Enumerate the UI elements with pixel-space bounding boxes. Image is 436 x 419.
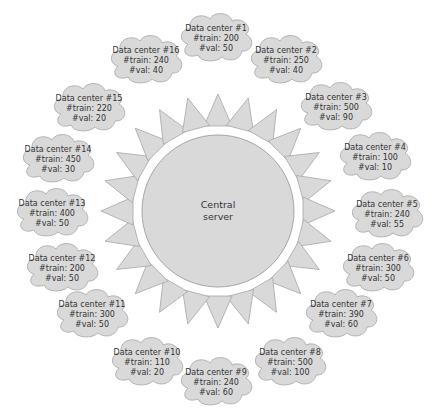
sun-ray-triangle [105, 175, 140, 202]
data-center-cloud: Data center #4#train: 100#val: 10 [340, 133, 410, 180]
sun-ray-triangle [101, 197, 133, 225]
federated-learning-diagram: Central server Data center #1#train: 200… [0, 0, 436, 419]
central-server-label-line2: server [203, 211, 233, 222]
data-center-name: Data center #5 [356, 200, 418, 209]
data-center-train-count: #train: 100 [352, 153, 398, 162]
data-center-name: Data center #11 [59, 300, 126, 309]
data-center-train-count: #train: 500 [313, 103, 359, 112]
data-center-val-count: #val: 20 [130, 368, 164, 377]
data-center-train-count: #train: 240 [193, 378, 239, 387]
data-center-val-count: #val: 40 [269, 66, 303, 75]
sun-ray-triangle [204, 296, 232, 328]
data-center-cloud: Data center #9#train: 240#val: 60 [181, 358, 251, 405]
data-center-val-count: #val: 60 [199, 388, 233, 397]
sun-ray-triangle [296, 175, 331, 202]
data-center-val-count: #val: 55 [370, 220, 404, 229]
data-center-cloud: Data center #7#train: 390#val: 60 [306, 290, 376, 337]
data-center-cloud: Data center #1#train: 200#val: 50 [181, 14, 251, 61]
data-center-cloud: Data center #12#train: 200#val: 50 [27, 244, 97, 291]
data-center-train-count: #train: 300 [69, 310, 115, 319]
sun-ray-triangle [182, 98, 209, 133]
data-center-val-count: #val: 50 [361, 274, 395, 283]
data-center-name: Data center #3 [305, 93, 367, 102]
data-center-train-count: #train: 220 [66, 104, 112, 113]
central-server-label-line1: Central [201, 199, 236, 210]
data-center-val-count: #val: 50 [45, 274, 79, 283]
data-center-cloud: Data center #5#train: 240#val: 55 [352, 190, 422, 237]
sun-ray-triangle [296, 219, 331, 246]
data-center-name: Data center #16 [113, 46, 180, 55]
data-center-val-count: #val: 60 [324, 320, 358, 329]
data-center-train-count: #train: 240 [123, 56, 169, 65]
data-center-cloud: Data center #11#train: 300#val: 50 [57, 290, 127, 337]
data-center-cloud: Data center #14#train: 450#val: 30 [23, 135, 93, 182]
data-center-name: Data center #15 [56, 94, 123, 103]
data-center-train-count: #train: 450 [35, 155, 81, 164]
sun-ray-triangle [226, 289, 253, 324]
data-center-val-count: #val: 100 [270, 368, 309, 377]
data-center-train-count: #train: 390 [318, 310, 364, 319]
data-center-cloud: Data center #13#train: 400#val: 50 [17, 189, 87, 236]
sun-ray-triangle [182, 289, 209, 324]
data-center-train-count: #train: 110 [124, 358, 170, 367]
data-center-train-count: #train: 200 [193, 34, 239, 43]
data-center-name: Data center #9 [185, 368, 247, 377]
sun-ray-triangle [105, 219, 140, 246]
data-center-val-count: #val: 90 [319, 113, 353, 122]
sun-ray-triangle [226, 98, 253, 133]
data-center-train-count: #train: 200 [39, 264, 85, 273]
data-center-name: Data center #10 [114, 348, 181, 357]
data-center-name: Data center #6 [347, 254, 409, 263]
data-center-name: Data center #7 [310, 300, 372, 309]
data-center-name: Data center #2 [255, 46, 317, 55]
data-center-name: Data center #13 [19, 199, 86, 208]
data-center-cloud: Data center #15#train: 220#val: 20 [54, 84, 124, 131]
data-center-name: Data center #4 [344, 143, 406, 152]
data-center-cloud: Data center #10#train: 110#val: 20 [112, 338, 182, 385]
data-center-val-count: #val: 50 [199, 44, 233, 53]
data-center-val-count: #val: 20 [72, 114, 106, 123]
central-server: Central server [142, 135, 294, 287]
data-center-train-count: #train: 500 [267, 358, 313, 367]
data-center-val-count: #val: 50 [75, 320, 109, 329]
data-center-train-count: #train: 250 [263, 56, 309, 65]
data-center-val-count: #val: 10 [358, 163, 392, 172]
data-center-val-count: #val: 30 [41, 165, 75, 174]
sun-ray-triangle [204, 94, 232, 126]
data-center-cloud: Data center #16#train: 240#val: 40 [111, 36, 181, 83]
data-center-cloud: Data center #3#train: 500#val: 90 [301, 83, 371, 130]
data-center-train-count: #train: 240 [364, 210, 410, 219]
data-center-name: Data center #14 [25, 145, 92, 154]
data-center-train-count: #train: 400 [29, 209, 75, 218]
data-center-train-count: #train: 300 [355, 264, 401, 273]
data-center-val-count: #val: 50 [35, 219, 69, 228]
data-center-name: Data center #12 [29, 254, 96, 263]
data-center-cloud: Data center #8#train: 500#val: 100 [255, 338, 325, 385]
data-center-cloud: Data center #2#train: 250#val: 40 [251, 36, 321, 83]
data-center-val-count: #val: 40 [129, 66, 163, 75]
sun-ray-triangle [303, 197, 335, 225]
data-center-name: Data center #8 [259, 348, 321, 357]
data-center-cloud: Data center #6#train: 300#val: 50 [343, 244, 413, 291]
data-center-name: Data center #1 [185, 24, 247, 33]
